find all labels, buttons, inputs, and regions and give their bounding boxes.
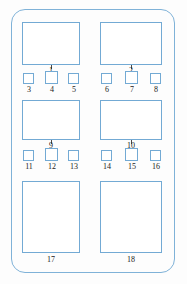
terminal-square-16[interactable] xyxy=(150,150,161,161)
terminal-label-13: 13 xyxy=(64,162,84,171)
component-label-18: 18 xyxy=(121,255,141,264)
terminal-label-7: 7 xyxy=(122,85,142,94)
component-box-18[interactable] xyxy=(100,181,162,253)
component-box-1[interactable] xyxy=(22,22,80,65)
component-box-17[interactable] xyxy=(22,181,80,253)
terminal-label-5: 5 xyxy=(64,85,84,94)
terminal-square-12[interactable] xyxy=(45,148,58,161)
panel-diagram: 1 2 3 4 5 6 7 8 9 10 11 12 13 14 15 16 1… xyxy=(0,0,187,284)
terminal-label-3: 3 xyxy=(19,85,39,94)
terminal-label-16: 16 xyxy=(146,162,166,171)
terminal-square-14[interactable] xyxy=(101,150,112,161)
terminal-label-11: 11 xyxy=(19,162,39,171)
terminal-label-12: 12 xyxy=(42,162,62,171)
terminal-square-3[interactable] xyxy=(23,73,34,84)
component-box-10[interactable] xyxy=(100,100,162,140)
terminal-label-15: 15 xyxy=(122,162,142,171)
component-box-9[interactable] xyxy=(22,100,80,140)
terminal-square-5[interactable] xyxy=(68,73,79,84)
terminal-square-13[interactable] xyxy=(68,150,79,161)
component-box-2[interactable] xyxy=(100,22,162,65)
component-label-17: 17 xyxy=(41,255,61,264)
terminal-square-8[interactable] xyxy=(150,73,161,84)
terminal-square-15[interactable] xyxy=(125,148,138,161)
terminal-label-14: 14 xyxy=(97,162,117,171)
terminal-label-4: 4 xyxy=(42,85,62,94)
terminal-square-7[interactable] xyxy=(125,71,138,84)
terminal-label-8: 8 xyxy=(146,85,166,94)
terminal-square-6[interactable] xyxy=(101,73,112,84)
terminal-label-6: 6 xyxy=(97,85,117,94)
terminal-square-11[interactable] xyxy=(23,150,34,161)
terminal-square-4[interactable] xyxy=(45,71,58,84)
